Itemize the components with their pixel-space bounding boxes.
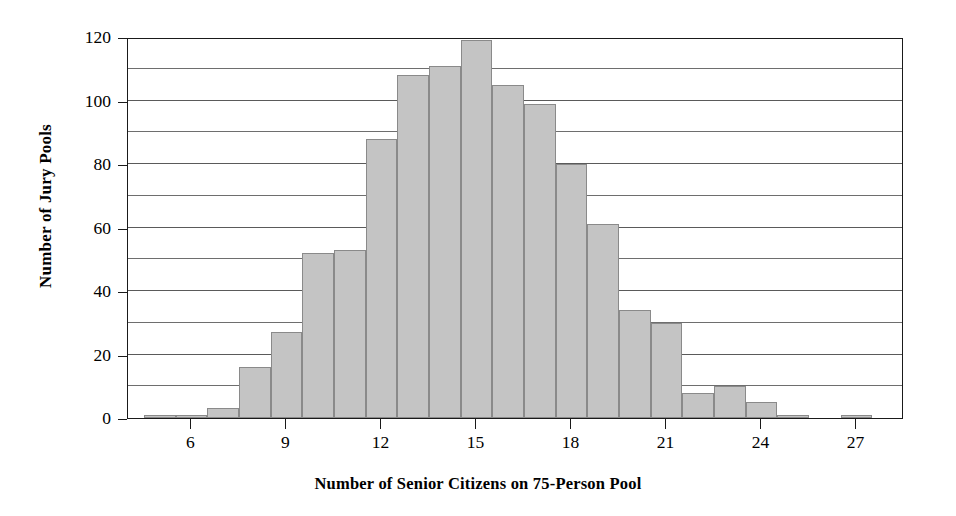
histogram-bar — [366, 139, 398, 418]
y-axis-tick-label: 40 — [51, 281, 111, 302]
x-axis-tick — [190, 419, 191, 429]
x-axis-tick-label: 12 — [360, 432, 400, 453]
histogram-bar — [334, 250, 366, 418]
y-axis-tick — [118, 229, 127, 230]
x-axis-tick-label: 9 — [265, 432, 305, 453]
x-axis-tick-label: 15 — [455, 432, 495, 453]
histogram-bar — [746, 402, 778, 418]
histogram-bar — [397, 75, 429, 418]
histogram-bar — [429, 66, 461, 418]
y-axis-tick-label: 60 — [51, 218, 111, 239]
y-axis-tick-label: 0 — [51, 408, 111, 429]
histogram-bar — [651, 323, 683, 418]
x-axis-tick — [855, 419, 856, 429]
x-axis-tick-label: 21 — [645, 432, 685, 453]
plot-inner — [128, 39, 902, 418]
histogram-figure: Number of Jury Pools 020406080100120 691… — [0, 0, 956, 516]
histogram-bar — [777, 415, 809, 418]
x-axis-tick — [380, 419, 381, 429]
histogram-bar — [841, 415, 873, 418]
y-axis-tick — [118, 419, 127, 420]
histogram-bar — [587, 224, 619, 418]
histogram-bar — [302, 253, 334, 418]
x-axis-tick — [285, 419, 286, 429]
y-axis-tick-label: 120 — [51, 27, 111, 48]
histogram-bar — [461, 40, 493, 418]
x-axis-tick-label: 6 — [170, 432, 210, 453]
x-axis-tick — [665, 419, 666, 429]
histogram-bar — [682, 393, 714, 418]
y-axis-tick — [118, 292, 127, 293]
histogram-bar — [176, 415, 208, 418]
histogram-bar — [239, 367, 271, 418]
x-axis-tick-label: 18 — [550, 432, 590, 453]
x-axis-tick-label: 27 — [835, 432, 875, 453]
histogram-bar — [524, 104, 556, 418]
gridline — [128, 68, 902, 69]
y-axis-tick-label: 100 — [51, 91, 111, 112]
y-axis-tick — [118, 102, 127, 103]
x-axis-tick — [475, 419, 476, 429]
y-axis-tick — [118, 38, 127, 39]
histogram-bar — [207, 408, 239, 418]
histogram-bar — [492, 85, 524, 418]
y-axis-tick-label: 20 — [51, 345, 111, 366]
x-axis-tick — [570, 419, 571, 429]
y-axis-tick — [118, 356, 127, 357]
histogram-bar — [556, 164, 588, 418]
x-axis-tick-label: 24 — [740, 432, 780, 453]
histogram-bar — [144, 415, 176, 418]
plot-area — [127, 38, 903, 419]
histogram-bar — [271, 332, 303, 418]
x-axis-tick — [760, 419, 761, 429]
x-axis-title: Number of Senior Citizens on 75-Person P… — [0, 474, 956, 494]
histogram-bar — [619, 310, 651, 418]
y-axis-tick-label: 80 — [51, 154, 111, 175]
y-axis-tick — [118, 165, 127, 166]
histogram-bar — [714, 386, 746, 418]
